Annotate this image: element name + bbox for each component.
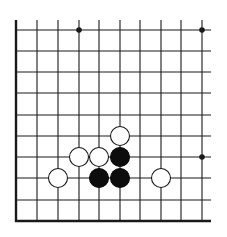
star-point-icon xyxy=(199,27,205,33)
white-stone xyxy=(49,169,68,188)
black-stone xyxy=(111,169,130,188)
star-point-icon xyxy=(199,154,205,160)
go-board xyxy=(0,0,227,237)
white-stone xyxy=(70,148,89,167)
white-stone xyxy=(90,148,109,167)
black-stone xyxy=(90,169,109,188)
grid-lines xyxy=(15,20,211,222)
white-stone xyxy=(152,169,171,188)
black-stone xyxy=(111,148,130,167)
star-point-icon xyxy=(76,27,82,33)
white-stone xyxy=(111,127,130,146)
